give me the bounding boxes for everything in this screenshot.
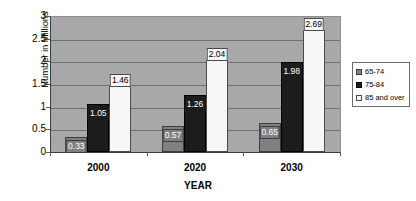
x-axis-tick-mark — [243, 152, 244, 156]
y-axis-tick-label: 2 — [20, 56, 46, 66]
y-axis-tick-mark — [46, 39, 50, 40]
legend-item: 85 and over — [356, 92, 406, 103]
bar: 2.69 — [303, 30, 325, 152]
bar: 0.57 — [162, 126, 184, 152]
y-axis-tick-label: 2.5 — [20, 34, 46, 44]
legend-label: 65-74 — [365, 68, 384, 76]
bar-data-label: 0.33 — [66, 140, 87, 153]
bar-data-label: 1.98 — [281, 65, 302, 78]
bar: 0.33 — [65, 137, 87, 152]
x-axis-title: YEAR — [0, 180, 416, 191]
x-axis-line — [50, 152, 341, 153]
legend-label: 75-84 — [365, 81, 384, 89]
bar-data-label: 0.57 — [163, 129, 184, 142]
legend-label: 85 and over — [365, 94, 405, 102]
y-axis-tick-labels: 00.511.522.53 — [16, 0, 46, 201]
bar: 1.26 — [184, 95, 206, 152]
legend-swatch-icon — [356, 69, 362, 75]
bar-data-label: 2.04 — [207, 48, 228, 61]
gridline — [51, 40, 341, 41]
bar: 1.98 — [281, 62, 303, 152]
chart-figure: Number in Millions 00.511.522.53 0.331.0… — [0, 0, 416, 201]
y-axis-tick-mark — [46, 152, 50, 153]
y-axis-tick-label: 1.5 — [20, 79, 46, 89]
chart-legend: 65-7475-8485 and over — [352, 62, 410, 107]
legend-item: 65-74 — [356, 66, 406, 77]
y-axis-tick-label: 1 — [20, 102, 46, 112]
y-axis-tick-mark — [46, 84, 50, 85]
bar: 1.05 — [87, 104, 109, 152]
legend-swatch-icon — [356, 95, 362, 101]
plot-right-edge — [340, 16, 341, 152]
y-axis-tick-label: 0 — [20, 147, 46, 157]
bar-data-label: 1.26 — [185, 98, 206, 111]
y-axis-tick-mark — [46, 107, 50, 108]
y-axis-tick-mark — [46, 16, 50, 17]
x-axis-tick-mark — [340, 152, 341, 156]
bar: 2.04 — [206, 60, 228, 152]
bar-data-label: 1.05 — [88, 107, 109, 120]
bar-data-label: 2.69 — [303, 18, 324, 31]
legend-swatch-icon — [356, 82, 362, 88]
bar-data-label: 0.65 — [259, 126, 280, 139]
y-axis-tick-label: 3 — [20, 11, 46, 21]
y-axis-tick-mark — [46, 61, 50, 62]
bar-data-label: 1.46 — [110, 74, 131, 87]
bar: 1.46 — [109, 86, 131, 152]
bar: 0.65 — [259, 123, 281, 152]
x-axis-tick-mark — [50, 152, 51, 156]
x-axis-tick-mark — [147, 152, 148, 156]
legend-item: 75-84 — [356, 79, 406, 90]
y-axis-tick-mark — [46, 129, 50, 130]
x-axis-category-label: 2030 — [281, 162, 303, 173]
x-axis-title-text: YEAR — [184, 180, 212, 191]
x-axis-category-label: 2000 — [87, 162, 109, 173]
x-axis-category-label: 2020 — [184, 162, 206, 173]
y-axis-tick-label: 0.5 — [20, 124, 46, 134]
